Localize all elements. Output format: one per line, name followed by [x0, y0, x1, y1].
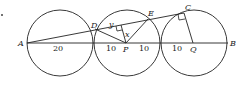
label-Q: Q [190, 45, 197, 54]
label-20: 20 [53, 44, 63, 53]
label-10-a: 10 [106, 44, 116, 53]
segment-CQ [184, 13, 193, 43]
label-y: y [108, 20, 114, 29]
label-C: C [185, 3, 191, 12]
label-E: E [147, 9, 154, 18]
bullet-marker [1, 14, 3, 16]
label-x: x [125, 30, 130, 39]
label-10-b: 10 [139, 44, 149, 53]
label-B: B [229, 39, 236, 48]
label-P: P [122, 45, 129, 54]
label-10-c: 10 [172, 44, 182, 53]
right-angle-mark-C [178, 14, 185, 20]
label-A: A [17, 39, 24, 48]
geometry-diagram: A B C D E P Q y x 20 10 10 10 [0, 0, 245, 87]
label-D: D [90, 21, 98, 30]
segment-DP [95, 29, 126, 43]
